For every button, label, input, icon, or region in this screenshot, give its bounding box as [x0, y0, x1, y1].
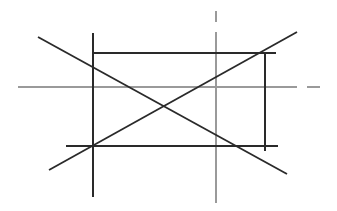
construction-drawing	[0, 0, 337, 211]
diagram-canvas: Geometric construction: rectangle with d…	[0, 0, 337, 211]
rectangle-lines	[66, 33, 278, 197]
center-axes	[18, 11, 320, 203]
